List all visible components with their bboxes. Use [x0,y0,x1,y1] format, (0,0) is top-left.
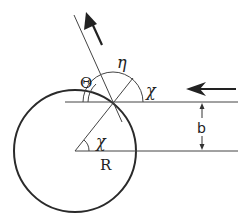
incident-arrow-icon [186,82,236,96]
chi-top-label: χ [145,81,157,100]
chi-center-arc [84,140,89,151]
reflected-arrow-icon [84,12,102,45]
reflected-ray-line [74,15,122,122]
scattering-diagram: Θ η χ χ R b [0,0,252,224]
chi-center-label: χ [95,132,107,151]
theta-label: Θ [80,74,92,92]
radius-label: R [100,156,112,174]
b-label: b [197,120,206,136]
eta-label: η [117,53,127,72]
